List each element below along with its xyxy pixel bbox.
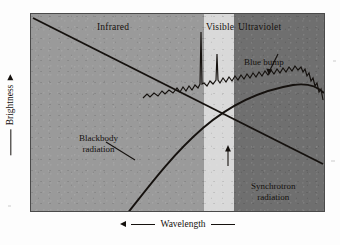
synchrotron-arrowhead [225, 145, 231, 151]
quasar-spectrum-figure: Infrared Visible Ultraviolet Blue bump B… [0, 0, 340, 245]
x-axis-label-text: Wavelength [160, 219, 205, 229]
paper-speck [331, 160, 335, 162]
y-axis-label-text: Brightness [5, 85, 15, 126]
x-axis-dash-left [131, 224, 155, 225]
annotation-blackbody-line1: Blackbody [79, 133, 118, 144]
annotation-blackbody-line2: radiation [79, 144, 118, 155]
band-label-infrared: Infrared [97, 22, 129, 32]
y-axis-dash [10, 129, 11, 155]
annotation-synchrotron-line1: Synchrotron [251, 181, 296, 192]
x-axis-arrow-icon [120, 221, 126, 227]
paper-speck [333, 60, 336, 62]
plot-area: Infrared Visible Ultraviolet Blue bump B… [30, 13, 325, 212]
annotation-synchrotron-line2: radiation [251, 192, 296, 203]
x-axis-dash-right [211, 224, 235, 225]
y-axis-label-inner: Brightness [5, 75, 15, 156]
annotation-blue-bump: Blue bump [244, 57, 284, 68]
observed-spectrum-trace [143, 32, 323, 100]
band-label-ultraviolet: Ultraviolet [238, 22, 281, 32]
x-axis-label: Wavelength [30, 219, 325, 229]
y-axis-label: Brightness [0, 55, 22, 175]
paper-speck [8, 205, 11, 207]
annotation-synchrotron: Synchrotron radiation [251, 181, 296, 202]
y-axis-arrow-icon [7, 75, 13, 81]
band-label-visible: Visible [206, 22, 234, 32]
annotation-blackbody: Blackbody radiation [79, 133, 118, 154]
synchrotron-line [33, 18, 323, 164]
